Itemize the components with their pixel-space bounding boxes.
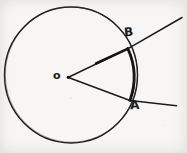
- geometry-figure: o B A: [0, 0, 187, 153]
- geometry-canvas: [0, 0, 187, 153]
- point-label-b: B: [123, 26, 133, 39]
- point-label-a: A: [130, 99, 140, 111]
- point-label-o: o: [53, 70, 61, 81]
- ray-upper-thick-stub: [96, 49, 128, 64]
- arc-B-to-A: [128, 49, 134, 101]
- vertex-dot-O: [67, 76, 70, 79]
- ray-O-through-A: [69, 78, 177, 106]
